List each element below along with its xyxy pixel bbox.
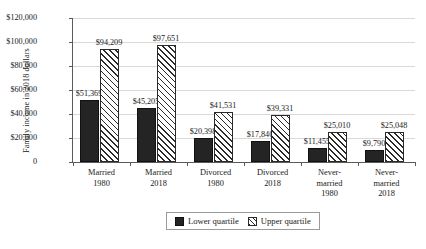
x-category-label-line: Never- xyxy=(358,168,416,179)
x-category-label: Divorced1980 xyxy=(187,168,245,189)
x-category-label-line: Never- xyxy=(301,168,359,179)
legend-swatch-lower-quartile xyxy=(175,217,184,226)
legend-swatch-upper-quartile xyxy=(248,217,257,226)
x-tick-mark xyxy=(415,162,416,166)
y-tick-label: $80,000 xyxy=(0,62,37,70)
gridline xyxy=(73,66,415,67)
y-tick-label: 0 xyxy=(0,158,37,166)
x-category-label-line: 2018 xyxy=(358,189,416,200)
y-tick-mark xyxy=(69,138,73,139)
bar-lower-quartile xyxy=(194,138,213,162)
bar-upper-quartile xyxy=(271,115,290,162)
y-tick-label: $100,000 xyxy=(0,38,37,46)
x-tick-mark xyxy=(73,162,74,166)
x-category-label-line: 1980 xyxy=(301,189,359,200)
legend-item-upper-quartile: Upper quartile xyxy=(248,216,311,226)
y-tick-mark xyxy=(69,18,73,19)
bar-chart: Family income in 2018 dollars $120,000$1… xyxy=(0,0,426,249)
x-tick-mark xyxy=(301,162,302,166)
bar-upper-quartile xyxy=(328,132,347,162)
bar-value-label: $97,651 xyxy=(144,35,188,43)
plot-area: $120,000$100,000$80,000$60,000$40,000$20… xyxy=(73,18,415,162)
bar-value-label: $25,048 xyxy=(372,122,416,130)
legend-label-lower-quartile: Lower quartile xyxy=(188,216,239,226)
legend-label-upper-quartile: Upper quartile xyxy=(261,216,311,226)
bar-lower-quartile xyxy=(137,108,156,162)
x-tick-mark xyxy=(187,162,188,166)
bar-lower-quartile xyxy=(308,148,327,162)
bar-lower-quartile xyxy=(251,141,270,162)
x-tick-mark xyxy=(244,162,245,166)
x-category-label: Married1980 xyxy=(73,168,131,189)
bar-upper-quartile xyxy=(385,132,404,162)
x-category-label-line: Married xyxy=(73,168,131,179)
bar-lower-quartile xyxy=(365,150,384,162)
gridline xyxy=(73,114,415,115)
bar-lower-quartile xyxy=(80,100,99,162)
chart-legend: Lower quartile Upper quartile xyxy=(166,212,320,230)
gridline xyxy=(73,18,415,19)
bar-value-label: $41,531 xyxy=(201,102,245,110)
y-tick-label: $60,000 xyxy=(0,86,37,94)
x-category-label-line: married xyxy=(301,179,359,190)
y-tick-label: $20,000 xyxy=(0,134,37,142)
x-category-label-line: 2018 xyxy=(130,179,188,190)
gridline xyxy=(73,90,415,91)
bar-upper-quartile xyxy=(214,112,233,162)
bar-value-label: $94,209 xyxy=(87,39,131,47)
legend-item-lower-quartile: Lower quartile xyxy=(175,216,239,226)
x-category-label-line: Divorced xyxy=(187,168,245,179)
x-tick-mark xyxy=(358,162,359,166)
y-tick-mark xyxy=(69,114,73,115)
bar-value-label: $39,331 xyxy=(258,105,302,113)
bar-value-label: $25,010 xyxy=(315,122,359,130)
x-category-label-line: married xyxy=(358,179,416,190)
x-category-label: Divorced2018 xyxy=(244,168,302,189)
x-category-label-line: 1980 xyxy=(73,179,131,190)
x-category-label: Married2018 xyxy=(130,168,188,189)
bar-upper-quartile xyxy=(100,49,119,162)
y-tick-label: $120,000 xyxy=(0,14,37,22)
y-tick-mark xyxy=(69,42,73,43)
x-category-label-line: 1980 xyxy=(187,179,245,190)
x-category-label-line: Married xyxy=(130,168,188,179)
x-category-label-line: Divorced xyxy=(244,168,302,179)
y-tick-mark xyxy=(69,66,73,67)
bar-upper-quartile xyxy=(157,45,176,162)
x-category-label-line: 2018 xyxy=(244,179,302,190)
x-tick-mark xyxy=(130,162,131,166)
y-tick-label: $40,000 xyxy=(0,110,37,118)
x-category-label: Never-married1980 xyxy=(301,168,359,200)
x-category-label: Never-married2018 xyxy=(358,168,416,200)
